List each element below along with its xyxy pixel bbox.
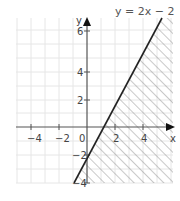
y-tick-label: 4 [77, 67, 83, 78]
inequality-graph: −4 −2 0 2 4 x 6 4 2 −2 −4 y y = 2x − 2 [0, 0, 180, 201]
x-tick-label: −4 [27, 133, 42, 144]
y-axis-label: y [76, 15, 82, 26]
x-axis-label: x [170, 133, 176, 144]
y-tick-label: 6 [77, 26, 83, 37]
y-tick-label: 2 [77, 95, 83, 106]
x-tick-label: −2 [55, 133, 70, 144]
y-axis-arrow-icon [83, 17, 91, 26]
equation-label: y = 2x − 2 [115, 5, 174, 18]
x-tick-label: 0 [79, 133, 85, 144]
x-tick-label: 2 [113, 133, 119, 144]
x-tick-label: 4 [141, 133, 147, 144]
y-tick-label: −2 [72, 150, 87, 161]
y-tick-label: −4 [72, 178, 87, 189]
